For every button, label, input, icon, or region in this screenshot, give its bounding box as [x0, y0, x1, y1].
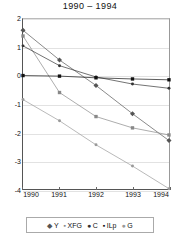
chart-figure: 1990 – 1994 210-1-2-3-4 1990199119921993…	[0, 0, 180, 237]
dot-marker-icon: ●	[87, 222, 91, 229]
x-tick-label: 1994	[153, 191, 169, 198]
data-point	[22, 98, 25, 101]
data-point	[131, 77, 134, 80]
legend-item-c[interactable]: ●C	[87, 222, 98, 229]
y-tick-label: 1	[1, 43, 21, 50]
chart-legend: ◆Y▪XFG●C▪ILp●G	[26, 217, 154, 233]
series-ilp	[21, 74, 170, 82]
series-layer	[23, 19, 169, 189]
legend-label: XFG	[68, 222, 82, 229]
square-marker-icon: ▪	[103, 222, 105, 229]
legend-label: C	[93, 222, 98, 229]
legend-label: ILp	[107, 222, 117, 229]
chart-title: 1990 – 1994	[0, 1, 180, 11]
x-tick-label: 1992	[88, 191, 104, 198]
y-tick-label: 2	[1, 15, 21, 22]
data-point	[168, 87, 171, 90]
data-point	[58, 119, 61, 122]
data-point	[131, 83, 134, 86]
x-tick-mark	[133, 187, 134, 190]
data-point	[58, 64, 61, 67]
x-tick-label: 1991	[51, 191, 67, 198]
data-point	[95, 143, 98, 146]
square-marker-icon: ▪	[64, 222, 66, 229]
data-point	[167, 133, 170, 136]
data-point	[131, 126, 134, 129]
legend-label: Y	[54, 222, 59, 229]
series-line	[23, 46, 169, 88]
legend-label: G	[127, 222, 132, 229]
x-tick-label: 1990	[23, 191, 39, 198]
data-point	[131, 165, 134, 168]
y-tick-label: 0	[1, 72, 21, 79]
data-point	[22, 44, 25, 47]
data-point	[166, 138, 171, 143]
data-point	[21, 74, 24, 77]
x-axis-labels: 19901991199219931994	[22, 191, 170, 203]
data-point	[58, 74, 61, 77]
dot-marker-icon: ●	[121, 222, 125, 229]
data-point	[58, 91, 61, 94]
diamond-marker-icon: ◆	[47, 222, 52, 229]
y-tick-label: -2	[1, 129, 21, 136]
y-tick-label: -4	[1, 187, 21, 194]
x-tick-mark	[96, 187, 97, 190]
x-tick-label: 1993	[125, 191, 141, 198]
legend-item-y[interactable]: ◆Y	[47, 222, 58, 229]
plot-area	[22, 18, 170, 190]
x-tick-mark	[59, 187, 60, 190]
x-tick-mark	[170, 187, 171, 190]
data-point	[21, 34, 24, 37]
series-g	[22, 98, 171, 190]
legend-item-xfg[interactable]: ▪XFG	[64, 222, 82, 229]
y-tick-label: -1	[1, 101, 21, 108]
data-point	[94, 76, 97, 79]
data-point	[167, 78, 170, 81]
x-tick-mark	[22, 187, 23, 190]
data-point	[94, 115, 97, 118]
legend-item-g[interactable]: ●G	[121, 222, 132, 229]
y-axis-labels: 210-1-2-3-4	[0, 18, 21, 190]
series-y	[20, 28, 171, 143]
legend-item-ilp[interactable]: ▪ILp	[103, 222, 117, 229]
y-tick-label: -3	[1, 158, 21, 165]
